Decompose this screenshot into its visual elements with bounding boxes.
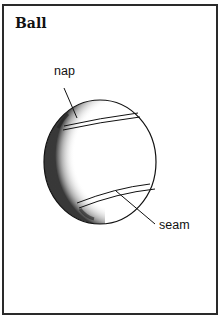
tennis-ball-illustration (0, 0, 223, 320)
